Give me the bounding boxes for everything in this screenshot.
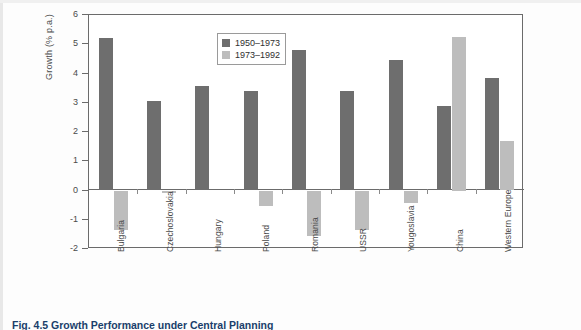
bar [259,191,273,206]
y-axis-tick-label: 1 [38,156,78,165]
x-axis-tick [476,189,477,194]
x-axis-tick [137,189,138,194]
bar [437,106,451,191]
bar [500,141,514,191]
bar [340,91,354,190]
x-axis-tick [427,189,428,194]
legend-label-series-1: 1973–1992 [235,50,280,60]
bar [292,50,306,190]
bar [147,101,161,191]
x-axis-label: Hungary [213,219,223,252]
y-axis-tick-label: 2 [38,127,78,136]
x-axis-tick [186,189,187,194]
bar [195,86,209,191]
bar [355,191,369,230]
figure-caption: Fig. 4.5 Growth Performance under Centra… [12,319,572,330]
y-axis-tick-label: 5 [38,39,78,48]
x-axis-label: Bulgaria [116,220,126,252]
x-axis-tick [331,189,332,194]
y-axis-tick-label: 6 [38,10,78,19]
x-axis-label: Poland [261,225,271,252]
y-axis-tick [82,248,88,249]
x-axis-label: Western Europe [503,189,513,252]
bar [389,60,403,190]
y-axis-tick-label: -2 [38,244,78,253]
y-axis-tick-label: 0 [38,186,78,195]
x-axis-label: China [455,229,465,252]
bar [244,91,258,190]
x-axis-label: Czechoslovakia [165,191,175,252]
x-axis-label: Romania [310,217,320,252]
x-axis-label: Yougoslavia [406,205,416,252]
legend: 1950–1973 1973–1992 [217,33,286,65]
y-axis-tick-label: 4 [38,69,78,78]
x-axis-tick [234,189,235,194]
legend-swatch-icon-series-0 [222,39,230,47]
legend-label-series-0: 1950–1973 [235,38,280,48]
bar [485,78,499,191]
figure-bar-chart: Growth (% p.a.) 6543210-1-2 1950–1973 19… [0,0,581,330]
x-axis-label: USSR [358,228,368,252]
bar [99,38,113,190]
bar [452,37,466,191]
legend-item-0: 1950–1973 [222,37,280,49]
x-axis-tick [282,189,283,194]
legend-swatch-icon-series-1 [222,51,230,59]
plot-area: 1950–1973 1973–1992 [88,14,523,248]
y-axis-tick-label: -1 [38,215,78,224]
y-axis-tick-label: 3 [38,98,78,107]
bar [404,191,418,203]
x-axis-tick [379,189,380,194]
legend-item-1: 1973–1992 [222,49,280,61]
